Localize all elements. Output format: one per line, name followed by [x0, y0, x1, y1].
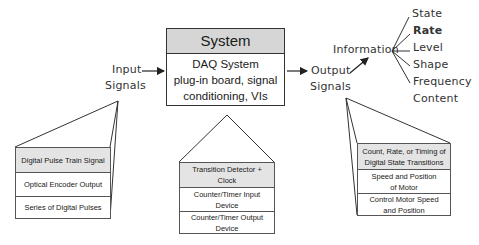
system-stack: Transition Detector + Clock Counter/Time…	[179, 162, 275, 234]
info-item-frequency: Frequency	[413, 75, 472, 88]
input-stack-item: Optical Encoder Output	[16, 172, 110, 196]
system-description: DAQ System plug-in board, signal conditi…	[167, 54, 284, 104]
information-arrow	[350, 58, 368, 73]
system-box: System DAQ System plug-in board, signal …	[166, 28, 285, 106]
system-line-1: DAQ System	[167, 56, 284, 72]
output-stack-item: Control Motor Speed and Position	[358, 193, 450, 215]
output-stack-item: Speed and Position of Motor	[358, 169, 450, 193]
system-callout	[179, 115, 274, 162]
input-label-line1: Input	[112, 63, 141, 76]
system-stack-item: Counter/Timer Output Device	[180, 211, 274, 233]
info-item-shape: Shape	[413, 58, 448, 71]
input-stack-item: Series of Digital Pulses	[16, 196, 110, 218]
info-item-state: State	[412, 7, 442, 20]
info-item-level: Level	[413, 41, 443, 54]
input-signal-stack: Digital Pulse Train Signal Optical Encod…	[15, 147, 111, 219]
info-item-rate: Rate	[413, 24, 442, 37]
input-label-line2: Signals	[105, 79, 146, 92]
info-item-content: Content	[413, 92, 458, 105]
system-stack-item: Transition Detector + Clock	[180, 163, 274, 187]
output-signal-stack: Count, Rate, or Timing of Digital State …	[357, 143, 451, 216]
system-line-3: conditioning, VIs	[167, 88, 284, 104]
system-stack-item: Counter/Timer Input Device	[180, 187, 274, 211]
output-label-line2: Signals	[310, 80, 351, 93]
output-label-line1: Output	[311, 64, 350, 77]
information-label: Information	[333, 43, 399, 56]
output-stack-item: Count, Rate, or Timing of Digital State …	[358, 144, 450, 169]
system-title: System	[167, 29, 284, 54]
input-stack-item: Digital Pulse Train Signal	[16, 148, 110, 172]
system-line-2: plug-in board, signal	[167, 72, 284, 88]
